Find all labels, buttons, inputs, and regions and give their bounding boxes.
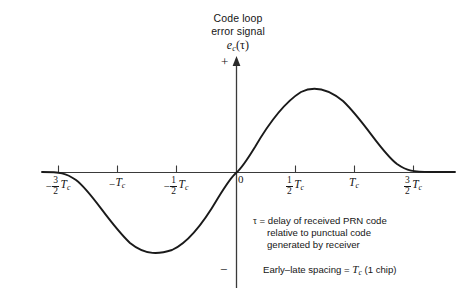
tick-fraction: 32 xyxy=(404,176,411,197)
tick-label-half-tc: 12Tc xyxy=(263,176,327,197)
tick-label-three-halves-tc: 32Tc xyxy=(381,176,445,197)
tick-unit-subscript: c xyxy=(122,181,125,190)
positive-polarity-marker: + xyxy=(221,55,228,68)
tick-unit: Tc xyxy=(61,178,71,194)
y-axis-title-line2: error signal xyxy=(211,25,265,37)
tick-label-minus-tc: −Tc xyxy=(85,176,149,192)
tick-fraction: 32 xyxy=(52,176,59,197)
tick-unit-subscript: c xyxy=(67,184,70,193)
tick-unit: Tc xyxy=(179,178,189,194)
tick-unit-subscript: c xyxy=(185,184,188,193)
tick-unit-subscript: c xyxy=(355,181,358,190)
spacing-prefix: Early–late spacing = xyxy=(263,264,352,275)
tick-fraction: 12 xyxy=(170,176,177,197)
tau-caption-line3: generated by receiver xyxy=(253,239,387,251)
y-axis-symbol-argument: (τ) xyxy=(236,38,249,52)
tick-denominator: 2 xyxy=(286,186,293,197)
tick-numerator: 1 xyxy=(286,176,293,186)
y-axis-title-line1: Code loop xyxy=(214,12,263,24)
negative-polarity-marker: − xyxy=(220,263,227,276)
origin-label: 0 xyxy=(238,174,244,185)
tick-sign: − xyxy=(164,180,170,193)
spacing-symbol: Tc xyxy=(352,263,361,275)
tick-sign: − xyxy=(46,180,52,193)
y-axis-symbol: ec(τ) xyxy=(186,38,290,56)
y-axis-title: Code loop error signal ec(τ) xyxy=(186,12,290,56)
code-loop-discriminator-figure: Code loop error signal ec(τ) + − 0 −32Tc… xyxy=(0,0,464,301)
tick-numerator: 3 xyxy=(404,176,411,186)
tick-denominator: 2 xyxy=(170,186,177,197)
tick-unit: Tc xyxy=(294,178,304,194)
tick-unit: Tc xyxy=(349,176,359,192)
tick-label-tc: Tc xyxy=(322,176,386,192)
y-axis-arrowhead xyxy=(233,56,241,66)
tick-unit: Tc xyxy=(115,176,125,192)
spacing-suffix: (1 chip) xyxy=(362,264,397,275)
discriminator-curve xyxy=(42,89,455,253)
tick-unit: Tc xyxy=(412,178,422,194)
tau-caption-line2: relative to punctual code xyxy=(253,227,387,239)
tick-numerator: 1 xyxy=(170,176,177,186)
tau-caption-line1: = delay of received PRN code xyxy=(257,215,387,226)
tick-unit-subscript: c xyxy=(301,184,304,193)
tick-sign: − xyxy=(109,178,115,191)
tick-denominator: 2 xyxy=(52,186,59,197)
early-late-spacing-caption: Early–late spacing = Tc (1 chip) xyxy=(263,263,396,279)
tick-label-minus-half-tc: −12Tc xyxy=(144,176,208,197)
tick-denominator: 2 xyxy=(404,186,411,197)
tick-unit-subscript: c xyxy=(419,184,422,193)
tick-numerator: 3 xyxy=(52,176,59,186)
tau-definition-caption: τ = delay of received PRN code relative … xyxy=(253,215,387,252)
tick-fraction: 12 xyxy=(286,176,293,197)
tick-label-minus-three-halves-tc: −32Tc xyxy=(26,176,90,197)
